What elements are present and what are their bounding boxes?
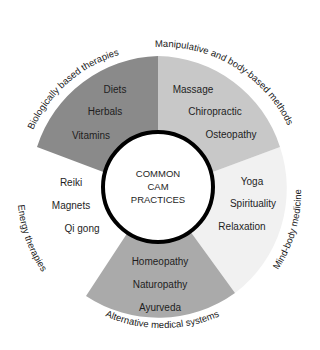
item-naturopathy: Naturopathy: [133, 279, 187, 290]
item-chiropractic: Chiropractic: [188, 106, 241, 117]
item-qigong: Qi gong: [64, 223, 99, 234]
center-line-3: PRACTICES: [131, 194, 185, 205]
item-reiki: Reiki: [60, 177, 82, 188]
item-spirituality: Spirituality: [230, 198, 276, 209]
item-herbals: Herbals: [88, 106, 122, 117]
item-yoga: Yoga: [241, 176, 264, 187]
item-diets: Diets: [104, 84, 127, 95]
center-line-1: COMMON: [136, 168, 180, 179]
cam-practices-diagram: COMMON CAM PRACTICES Diets Herbals Vitam…: [0, 0, 320, 350]
item-osteopathy: Osteopathy: [205, 129, 256, 140]
item-vitamins: Vitamins: [72, 130, 110, 141]
item-ayurveda: Ayurveda: [139, 302, 182, 313]
item-massage: Massage: [173, 84, 214, 95]
item-magnets: Magnets: [52, 200, 90, 211]
item-relaxation: Relaxation: [218, 221, 265, 232]
center-line-2: CAM: [147, 181, 168, 192]
item-homeopathy: Homeopathy: [132, 256, 189, 267]
